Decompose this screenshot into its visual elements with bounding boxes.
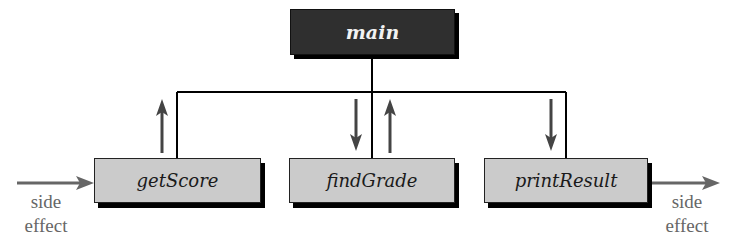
main-module-label: main	[346, 21, 399, 43]
side-effect-right-line1: side	[655, 190, 719, 214]
up-arrow-findgrade	[384, 99, 396, 153]
down-arrow-printresult	[545, 99, 557, 151]
getscore-module-box: getScore	[94, 158, 261, 203]
findgrade-module-label: findGrade	[326, 170, 417, 191]
side-effect-right-line2: effect	[655, 214, 719, 238]
side-effect-label-right: side effect	[655, 190, 719, 238]
getscore-module-label: getScore	[137, 170, 219, 191]
side-effect-left-line2: effect	[14, 214, 78, 238]
side-effect-arrow-out	[652, 176, 720, 190]
up-arrow-getscore	[156, 99, 168, 153]
printresult-module-box: printResult	[484, 158, 648, 203]
main-module-box: main	[290, 9, 455, 55]
side-effect-left-line1: side	[14, 190, 78, 214]
side-effect-arrow-in	[17, 176, 94, 190]
down-arrow-findgrade	[350, 99, 362, 151]
printresult-module-label: printResult	[515, 170, 618, 191]
side-effect-label-left: side effect	[14, 190, 78, 238]
findgrade-module-box: findGrade	[289, 158, 455, 203]
